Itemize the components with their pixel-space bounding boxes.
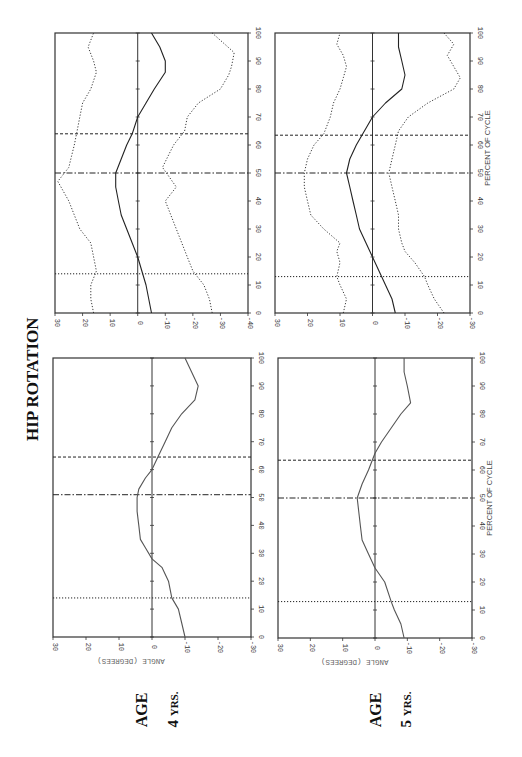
y-tick-label: -20 [216, 641, 224, 654]
y-tick-label: 30 [273, 319, 281, 327]
y-tick-label: -30 [218, 317, 226, 330]
x-tick-label: 10 [476, 281, 484, 289]
x-tick-label: 10 [254, 281, 262, 289]
x-tick-label: 80 [257, 410, 265, 418]
y-tick-label: -20 [436, 317, 444, 330]
y-tick-label: -30 [249, 641, 257, 654]
x-tick-label: 20 [254, 253, 262, 261]
x-tick-label: 100 [478, 352, 486, 365]
x-tick-label: 90 [254, 57, 262, 65]
x-tick-label: 90 [257, 382, 265, 390]
x-tick-label: 40 [476, 197, 484, 205]
x-tick-label: 90 [478, 382, 486, 390]
y-tick-label: 0 [373, 646, 381, 650]
chart-panel-age4-mean: 01020304050607080901003020100-10-20-30AN… [51, 352, 265, 665]
y-tick-label: -10 [163, 317, 171, 330]
y-tick-label: 30 [51, 643, 59, 651]
x-tick-label: 100 [476, 27, 484, 40]
x-tick-label: 80 [254, 85, 262, 93]
x-tick-label: 30 [257, 549, 265, 557]
x-axis-label: PERCENT OF CYCLE [485, 460, 494, 535]
x-tick-label: 40 [254, 197, 262, 205]
x-tick-label: 0 [476, 311, 484, 315]
y-tick-label: 10 [117, 643, 125, 651]
x-tick-label: 20 [478, 578, 486, 586]
hip-rotation-figure: 01020304050607080901003020100-10-20-30-4… [0, 0, 522, 757]
y-tick-label: 10 [341, 644, 349, 652]
y-tick-label: 20 [308, 644, 316, 652]
y-tick-label: -30 [470, 642, 478, 655]
x-tick-label: 30 [478, 550, 486, 558]
x-tick-label: 20 [257, 577, 265, 585]
x-tick-label: 80 [476, 85, 484, 93]
x-tick-label: 0 [478, 636, 486, 640]
x-tick-label: 80 [478, 410, 486, 418]
y-tick-label: 20 [81, 319, 89, 327]
x-tick-label: 100 [257, 352, 265, 365]
x-tick-label: 70 [257, 437, 265, 445]
years-label-5: 5 YRS. [398, 684, 415, 736]
y-tick-label: -20 [438, 642, 446, 655]
y-tick-label: -10 [403, 317, 411, 330]
x-tick-label: 60 [257, 465, 265, 473]
x-tick-label: 60 [254, 141, 262, 149]
chart-panel-age5-sd: 01020304050607080901003020100-10-20-30PE… [273, 27, 492, 330]
y-axis-label: ANGLE (DEGREES) [97, 657, 165, 665]
y-tick-label: -40 [246, 317, 254, 330]
y-tick-label: -10 [405, 642, 413, 655]
y-tick-label: 0 [150, 645, 158, 649]
chart-panel-age4-sd: 01020304050607080901003020100-10-20-30-4… [53, 27, 262, 330]
y-tick-label: 10 [108, 319, 116, 327]
y-tick-label: 30 [53, 319, 61, 327]
x-tick-label: 90 [476, 57, 484, 65]
x-tick-label: 20 [476, 253, 484, 261]
x-tick-label: 30 [254, 225, 262, 233]
years-unit: YRS. [401, 692, 413, 717]
years-value: 4 [165, 720, 181, 728]
x-tick-label: 0 [254, 311, 262, 315]
x-tick-label: 0 [257, 635, 265, 639]
x-tick-label: 10 [478, 606, 486, 614]
figure-title: HIP ROTATION [23, 321, 43, 441]
x-tick-label: 100 [254, 27, 262, 40]
years-unit: YRS. [168, 692, 180, 717]
x-tick-label: 10 [257, 605, 265, 613]
y-tick-label: 30 [276, 644, 284, 652]
y-tick-label: 0 [371, 321, 379, 325]
y-tick-label: 0 [136, 321, 144, 325]
y-tick-label: 10 [338, 319, 346, 327]
y-tick-label: -10 [183, 641, 191, 654]
age-label-5: AGE [367, 690, 385, 730]
chart-panel-age5-mean: 01020304050607080901003020100-10-20-30PE… [276, 352, 494, 666]
years-label-4: 4 YRS. [165, 684, 182, 736]
years-value: 5 [398, 720, 414, 728]
x-axis-label: PERCENT OF CYCLE [483, 110, 492, 185]
age-label-4: AGE [133, 690, 151, 730]
x-tick-label: 30 [476, 225, 484, 233]
x-tick-label: 50 [254, 169, 262, 177]
x-tick-label: 50 [257, 493, 265, 501]
y-tick-label: -30 [468, 317, 476, 330]
x-tick-label: 70 [478, 438, 486, 446]
y-tick-label: 20 [306, 319, 314, 327]
x-tick-label: 40 [257, 521, 265, 529]
x-tick-label: 70 [254, 113, 262, 121]
y-tick-label: -20 [191, 317, 199, 330]
y-tick-label: 20 [84, 643, 92, 651]
series-mean [137, 358, 198, 637]
y-axis-label: ANGLE (DEGREES) [321, 658, 389, 666]
